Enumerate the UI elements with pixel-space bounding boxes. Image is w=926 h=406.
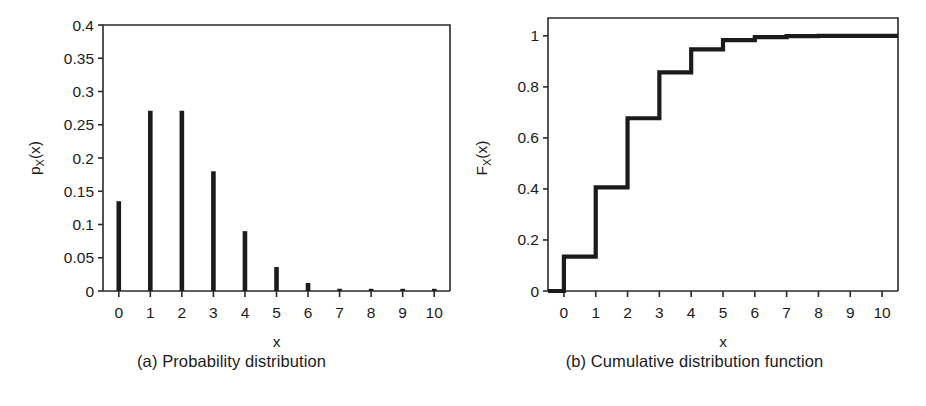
y-axis-title-text: FX(x) (473, 141, 493, 176)
y-axis-title: FX(x) (473, 141, 493, 176)
x-tick-label: 5 (272, 304, 281, 321)
x-tick-label: 3 (655, 304, 664, 321)
y-tick-label: 1 (530, 27, 539, 44)
x-tick-label: 3 (209, 304, 218, 321)
y-axis-title-text: pX(x) (26, 141, 46, 175)
x-tick-label: 6 (751, 304, 760, 321)
x-tick-label: 1 (146, 304, 155, 321)
y-tick-label: 0.2 (517, 231, 539, 248)
y-tick-label: 0 (530, 283, 539, 300)
x-tick-label: 10 (873, 304, 891, 321)
x-tick-label: 10 (426, 304, 444, 321)
y-tick-label: 0.4 (517, 180, 539, 197)
x-axis-title: x (273, 333, 281, 350)
x-tick-label: 2 (178, 304, 187, 321)
y-tick-label: 0.8 (517, 78, 539, 95)
y-axis-title: pX(x) (26, 141, 46, 175)
caption-panel-b: (b) Cumulative distribution function (463, 352, 926, 371)
y-tick-label: 0.4 (72, 17, 94, 34)
panel-cumulative-distribution: 00.20.40.60.81012345678910xFX(x) (b) Cum… (463, 0, 926, 406)
cdf-step-line (548, 36, 898, 291)
x-tick-label: 8 (367, 304, 376, 321)
plot-frame (103, 25, 450, 291)
x-tick-label: 7 (335, 304, 344, 321)
y-tick-label: 0 (85, 283, 94, 300)
x-tick-label: 2 (623, 304, 632, 321)
x-tick-label: 9 (846, 304, 855, 321)
y-tick-label: 0.1 (72, 216, 94, 233)
caption-panel-a: (a) Probability distribution (0, 352, 463, 371)
cdf-chart: 00.20.40.60.81012345678910xFX(x) (463, 0, 926, 350)
pmf-chart: 00.050.10.150.20.250.30.350.401234567891… (0, 0, 463, 350)
panel-probability-distribution: 00.050.10.150.20.250.30.350.401234567891… (0, 0, 463, 406)
y-tick-label: 0.3 (72, 83, 94, 100)
x-axis-title: x (719, 333, 727, 350)
figure-container: 00.050.10.150.20.250.30.350.401234567891… (0, 0, 926, 406)
x-tick-label: 0 (114, 304, 123, 321)
x-tick-label: 1 (591, 304, 600, 321)
y-tick-label: 0.2 (72, 150, 94, 167)
y-tick-label: 0.6 (517, 129, 539, 146)
y-tick-label: 0.05 (64, 249, 94, 266)
x-tick-label: 6 (304, 304, 313, 321)
y-tick-label: 0.15 (64, 183, 94, 200)
x-tick-label: 9 (398, 304, 407, 321)
y-tick-label: 0.25 (64, 116, 94, 133)
x-tick-label: 8 (814, 304, 823, 321)
x-tick-label: 4 (687, 304, 696, 321)
x-tick-label: 7 (782, 304, 791, 321)
plot-frame (548, 18, 898, 291)
y-tick-label: 0.35 (64, 50, 94, 67)
x-tick-label: 5 (719, 304, 728, 321)
x-tick-label: 0 (560, 304, 569, 321)
x-tick-label: 4 (241, 304, 250, 321)
